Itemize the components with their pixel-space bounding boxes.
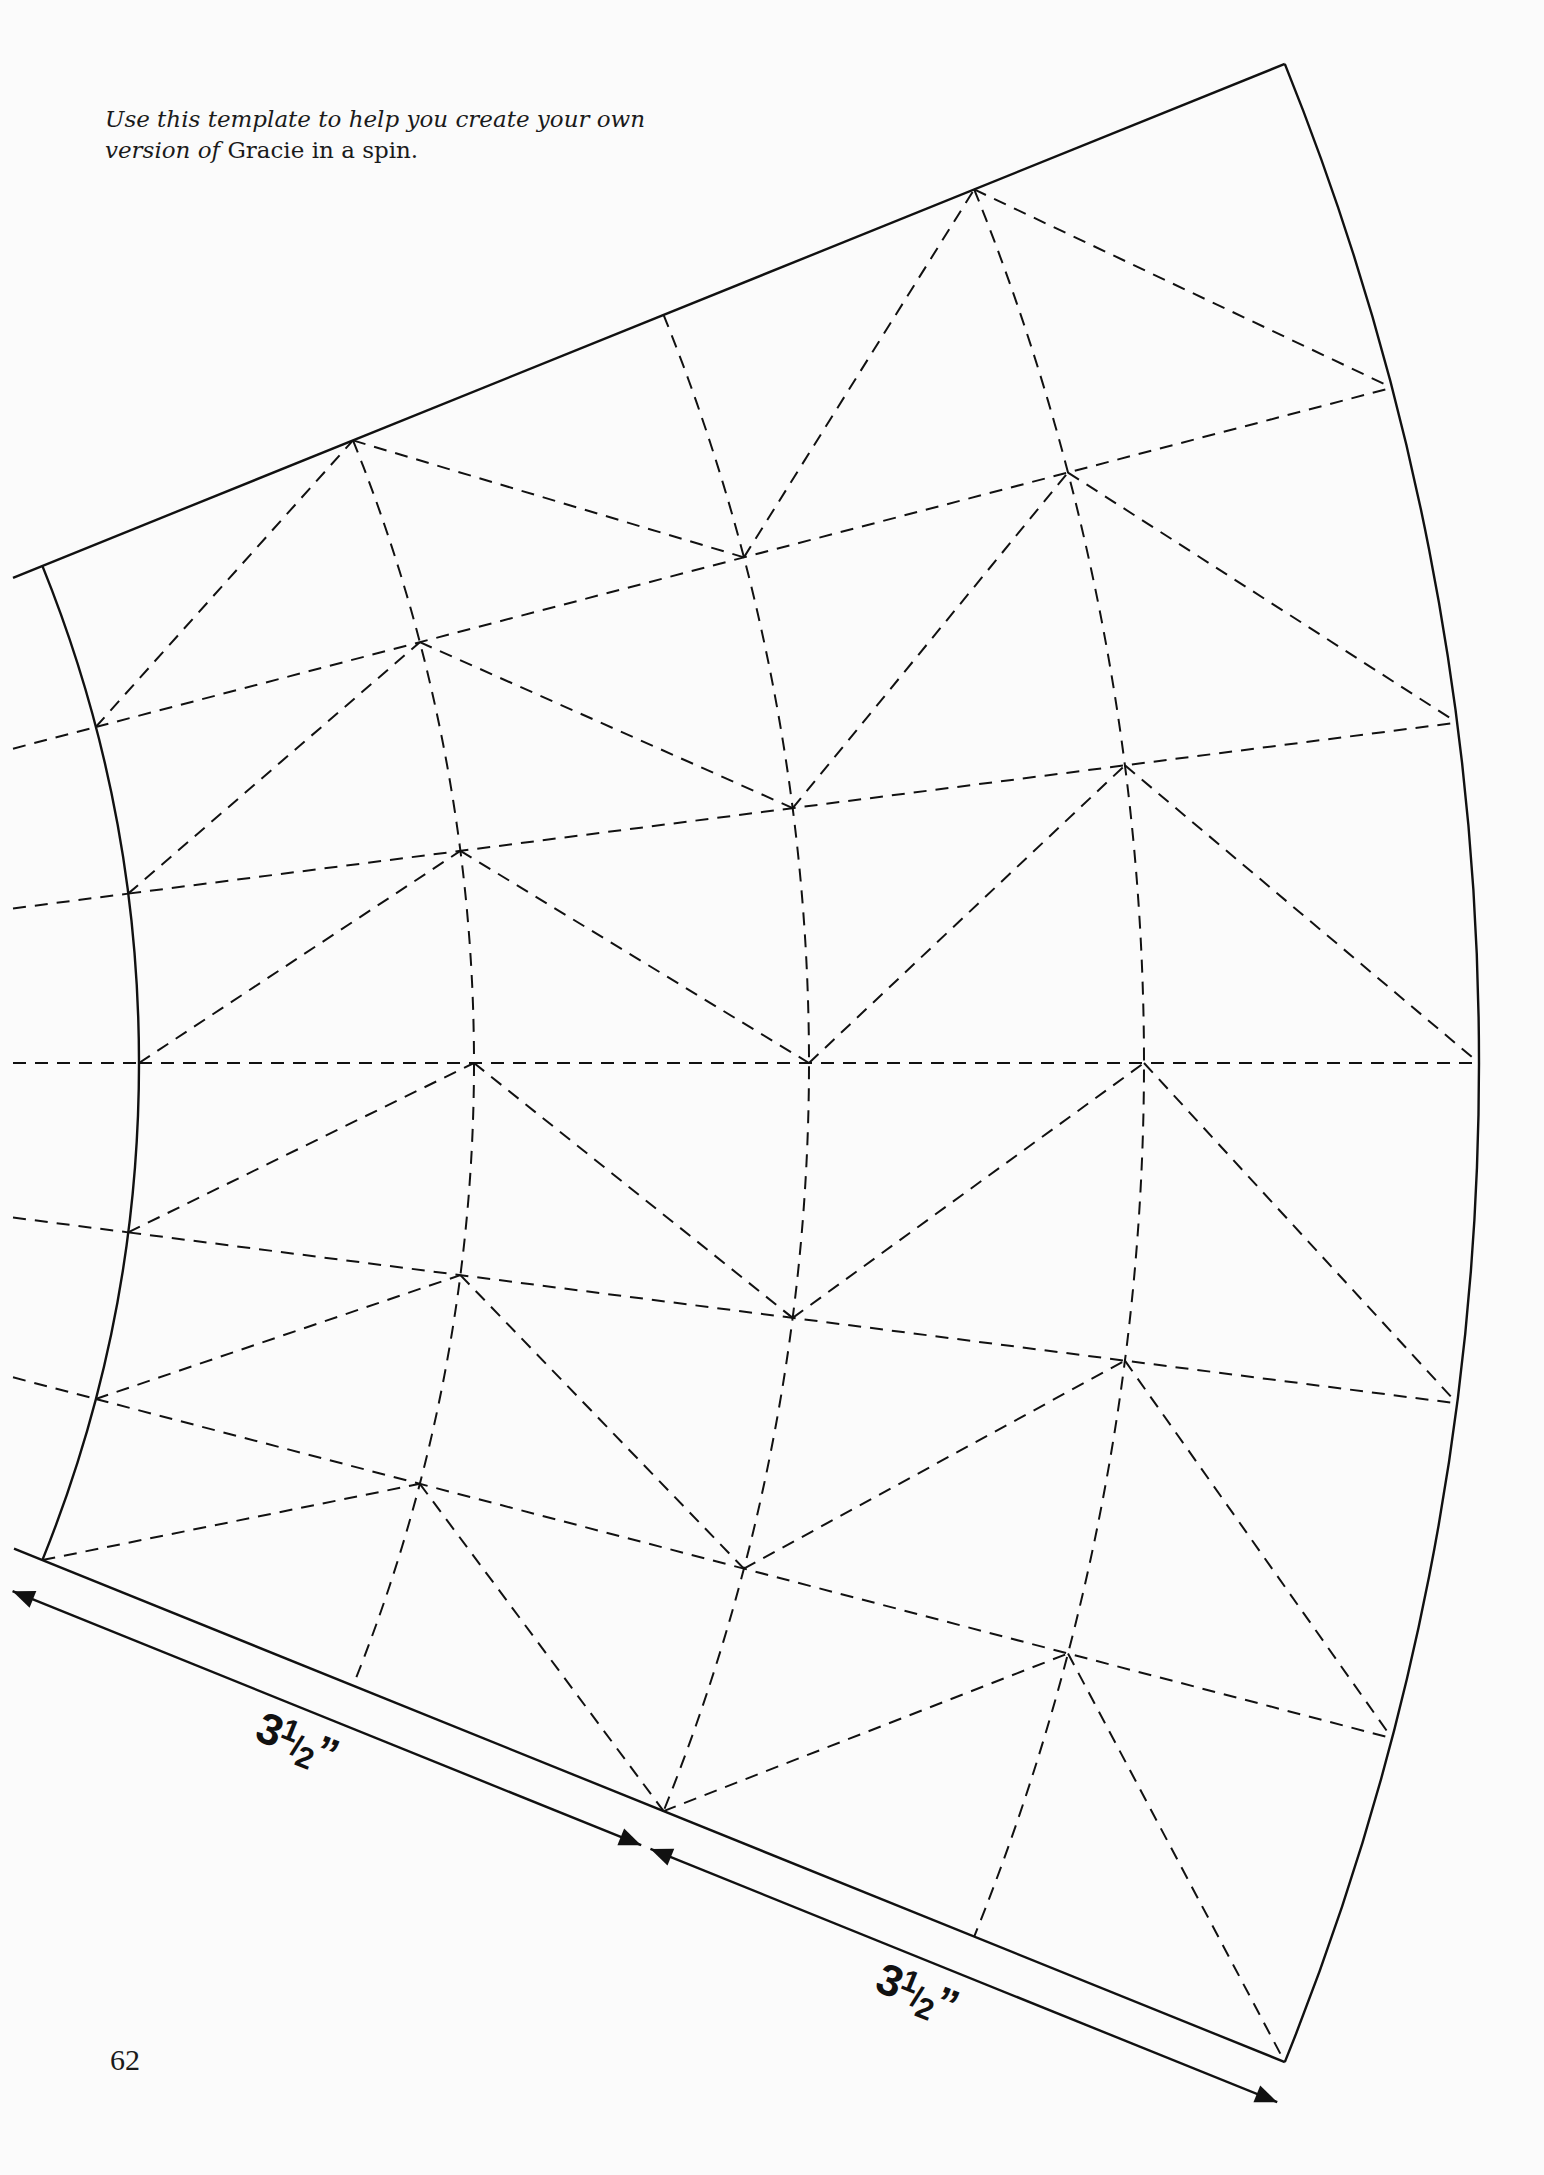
- fold-ray-extension: [13, 894, 128, 909]
- fold-diagonal: [460, 851, 809, 1063]
- fold-diagonal: [420, 642, 793, 808]
- dimension-arrow-left: [13, 1591, 642, 1845]
- fold-diagonal: [809, 765, 1125, 1063]
- fold-diagonal: [96, 1275, 461, 1399]
- fold-diagonal: [128, 1063, 474, 1232]
- template-page: Use this template to help you create you…: [0, 0, 1544, 2175]
- fold-diagonal: [744, 189, 974, 557]
- fold-ray-extension: [13, 1377, 96, 1399]
- fold-diagonal: [96, 440, 353, 727]
- fold-diagonal: [139, 851, 460, 1063]
- arrowhead-icon: [13, 1591, 37, 1608]
- arrowhead-icon: [617, 1829, 641, 1846]
- top-edge-line: [13, 64, 1285, 578]
- fold-diagonal: [744, 1361, 1125, 1569]
- dimension-arrow-right: [650, 1849, 1277, 2102]
- fold-diagonal: [793, 1063, 1144, 1318]
- fan-template-diagram: [0, 0, 1544, 2175]
- fold-diagonal: [1068, 1653, 1285, 2062]
- dashed-fold-lines: [13, 189, 1479, 2062]
- arrowhead-icon: [650, 1849, 674, 1866]
- fold-ray-extension: [13, 727, 96, 749]
- fold-diagonal: [664, 1653, 1068, 1811]
- fold-diagonal: [353, 440, 744, 557]
- fold-diagonal: [1125, 1361, 1392, 1739]
- fold-ray: [128, 1232, 1457, 1403]
- fold-diagonal: [474, 1063, 793, 1318]
- page-number: 62: [110, 2043, 140, 2077]
- bottom-edge-line: [14, 1549, 1285, 2062]
- fold-diagonal: [42, 1484, 419, 1560]
- fold-diagonal: [1144, 1063, 1457, 1403]
- fold-ray-extension: [13, 1218, 128, 1233]
- dimension-arrows: [13, 1591, 1278, 2102]
- arrowhead-icon: [1253, 2086, 1277, 2103]
- fold-diagonal: [1068, 473, 1457, 723]
- fold-diagonal: [460, 1275, 744, 1569]
- fold-diagonal: [974, 189, 1392, 387]
- fold-diagonal: [793, 473, 1068, 809]
- fold-diagonal: [1125, 765, 1479, 1063]
